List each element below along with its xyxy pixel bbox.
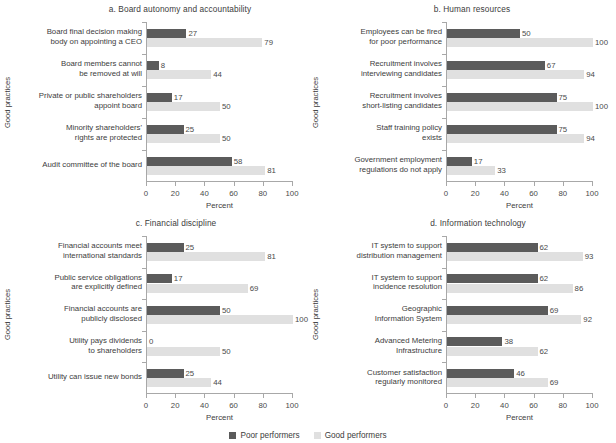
xtick-d-0: [446, 394, 447, 398]
ytick-b-2: [442, 86, 446, 87]
bar-b-4-good: [447, 166, 495, 175]
bar-a-2-good: [147, 102, 220, 111]
legend-label-poor: Poor performers: [240, 431, 299, 440]
panel-b: b. Human resources Good practices Employ…: [308, 0, 616, 207]
ytick-b-1: [442, 54, 446, 55]
bar-c-3-good: [147, 347, 220, 356]
bar-b-1-poor: [447, 61, 545, 70]
xtick-d-80: [563, 394, 564, 398]
xtick-b-80: [563, 182, 564, 186]
barvalue-c-4-poor: 25: [184, 369, 195, 378]
xaxis-title-d: Percent: [446, 413, 593, 422]
xtick-b-100: [592, 182, 593, 186]
bar-c-0-poor: [147, 243, 184, 252]
xtick-c-100: [292, 394, 293, 398]
barvalue-b-1-poor: 67: [545, 61, 556, 70]
category-label-c-0: Financial accounts meetinternational sta…: [10, 241, 142, 260]
bar-b-4-poor: [447, 157, 472, 166]
panel-a-title: a. Board autonomy and accountability: [0, 4, 300, 14]
ytick-b-4: [442, 150, 446, 151]
bar-b-0-poor: [447, 29, 520, 38]
barvalue-d-0-good: 93: [583, 252, 594, 261]
barvalue-b-0-good: 100: [593, 38, 608, 47]
category-label-line: regularly monitored: [314, 377, 442, 387]
barvalue-c-0-good: 81: [265, 252, 276, 261]
barvalue-b-2-good: 100: [593, 102, 608, 111]
xtick-c-60: [234, 394, 235, 398]
category-label-b-2: Recruitment involvesshort-listing candid…: [314, 91, 442, 110]
xticklabel-b-20: 20: [471, 189, 480, 198]
chart-legend: Poor performers Good performers: [0, 431, 616, 440]
panel-b-title: b. Human resources: [308, 4, 608, 14]
xtick-a-0: [146, 182, 147, 186]
panel-d-title: d. Information technology: [308, 218, 608, 228]
barvalue-a-3-poor: 25: [184, 125, 195, 134]
bar-a-1-poor: [147, 61, 159, 70]
barvalue-c-2-good: 100: [293, 315, 308, 324]
category-label-line: Staff training policy: [314, 123, 442, 133]
category-label-d-0: IT system to supportdistribution managem…: [314, 241, 442, 260]
bar-d-4-good: [447, 378, 548, 387]
panel-a-category-labels: Board final decision makingbody on appoi…: [10, 22, 142, 182]
xtick-a-100: [292, 182, 293, 186]
bar-d-4-poor: [447, 369, 514, 378]
xticklabel-d-20: 20: [471, 401, 480, 410]
category-label-b-0: Employees can be firedfor poor performan…: [314, 27, 442, 46]
xticklabel-b-0: 0: [444, 189, 448, 198]
bar-a-0-good: [147, 38, 262, 47]
legend-label-good: Good performers: [325, 431, 387, 440]
category-label-line: to shareholders: [10, 346, 142, 356]
category-label-line: publicly disclosed: [10, 314, 142, 324]
bar-d-1-good: [447, 284, 573, 293]
panel-c-category-labels: Financial accounts meetinternational sta…: [10, 236, 142, 396]
panel-c-title: c. Financial discipline: [0, 218, 300, 228]
ytick-c-4: [142, 362, 146, 363]
xticklabel-d-100: 100: [585, 401, 598, 410]
xticklabel-a-20: 20: [171, 189, 180, 198]
barvalue-c-3-poor: 0: [147, 337, 153, 346]
category-label-a-4: Audit committee of the board: [10, 160, 142, 170]
barvalue-a-4-good: 81: [265, 166, 276, 175]
xaxis-title-a: Percent: [146, 201, 293, 210]
category-label-line: Customer satisfaction: [314, 368, 442, 378]
bar-d-1-poor: [447, 274, 538, 283]
category-label-line: regulations do not apply: [314, 165, 442, 175]
barvalue-a-2-poor: 17: [172, 93, 183, 102]
bar-a-2-poor: [147, 93, 172, 102]
barvalue-c-2-poor: 50: [220, 306, 231, 315]
category-label-line: Public service obligations: [10, 273, 142, 283]
panel-b-xaxis: [446, 181, 593, 182]
category-label-line: Utility pays dividends: [10, 336, 142, 346]
panel-d-category-labels: IT system to supportdistribution managem…: [314, 236, 442, 396]
barvalue-d-2-good: 92: [581, 315, 592, 324]
panel-b-plot: 020406080100Percent501006794751007594173…: [446, 22, 593, 182]
barvalue-d-3-good: 62: [538, 347, 549, 356]
category-label-line: Financial accounts are: [10, 304, 142, 314]
bar-b-1-good: [447, 70, 584, 79]
panel-a-xaxis: [146, 181, 293, 182]
barvalue-d-3-poor: 38: [502, 337, 513, 346]
bar-a-0-poor: [147, 29, 186, 38]
bar-b-3-poor: [447, 125, 557, 134]
barvalue-c-1-good: 69: [248, 284, 259, 293]
bar-d-2-good: [447, 315, 581, 324]
bar-a-3-poor: [147, 125, 184, 134]
category-label-a-0: Board final decision makingbody on appoi…: [10, 27, 142, 46]
xtick-c-80: [263, 394, 264, 398]
category-label-c-2: Financial accounts arepublicly disclosed: [10, 304, 142, 323]
xaxis-title-c: Percent: [146, 413, 293, 422]
category-label-line: Government employment: [314, 155, 442, 165]
ytick-d-2: [442, 299, 446, 300]
bar-d-0-poor: [447, 243, 538, 252]
xticklabel-b-60: 60: [529, 189, 538, 198]
bar-d-3-good: [447, 347, 538, 356]
xtick-c-20: [175, 394, 176, 398]
barvalue-d-1-poor: 62: [538, 274, 549, 283]
barvalue-d-4-poor: 46: [514, 369, 525, 378]
bar-c-0-good: [147, 252, 265, 261]
xtick-b-0: [446, 182, 447, 186]
xticklabel-c-20: 20: [171, 401, 180, 410]
category-label-line: for poor performance: [314, 37, 442, 47]
xticklabel-b-100: 100: [585, 189, 598, 198]
barvalue-a-2-good: 50: [220, 102, 231, 111]
